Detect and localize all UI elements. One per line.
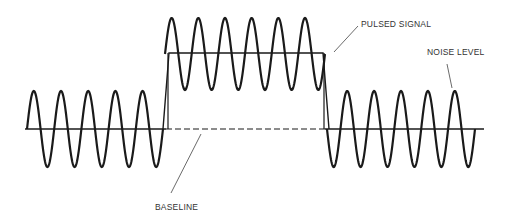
signal-diagram: PULSED SIGNAL NOISE LEVEL BASELINE <box>0 0 507 222</box>
pulse-envelope <box>163 53 329 129</box>
pulsed-signal-label: PULSED SIGNAL <box>361 19 431 29</box>
pulsed-signal-leader <box>334 26 358 52</box>
baseline-leader <box>171 134 201 193</box>
pulsed-signal-wave <box>165 18 325 90</box>
baseline-label: BASELINE <box>155 202 198 212</box>
noise-level-label: NOISE LEVEL <box>427 47 485 57</box>
noise-level-leader <box>447 64 452 88</box>
